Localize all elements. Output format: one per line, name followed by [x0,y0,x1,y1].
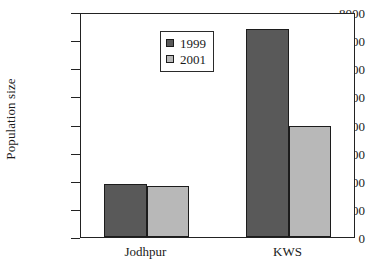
y-axis-title-text: Population size [3,78,19,159]
y-axis-tick [71,126,80,127]
chart-legend: 1999 2001 [160,31,214,72]
bar-kws-1999 [246,29,289,237]
y-axis-title: Population size [0,0,22,238]
y-axis-tick [71,182,80,183]
plot-area: 1999 2001 [80,13,355,238]
y-axis-tick [71,238,80,239]
x-axis-tick-label: KWS [273,244,302,260]
y-axis-tick [71,41,80,42]
bar-jodhpur-2001 [147,186,190,237]
y-axis-tick [71,69,80,70]
bar-jodhpur-1999 [104,184,147,237]
bar-kws-2001 [289,126,332,237]
y-axis-tick [71,210,80,211]
legend-label-2001: 2001 [180,53,206,66]
y-axis-tick [71,13,80,14]
legend-label-1999: 1999 [180,37,206,50]
legend-swatch-2001 [166,55,174,63]
legend-item: 1999 [166,35,206,51]
x-axis-tick-label: Jodhpur [125,244,167,260]
bar-chart-figure: Population size 010002000300040005000600… [0,0,368,267]
legend-item: 2001 [166,51,206,67]
y-axis-tick [71,154,80,155]
legend-swatch-1999 [166,39,174,47]
y-axis-tick [71,97,80,98]
